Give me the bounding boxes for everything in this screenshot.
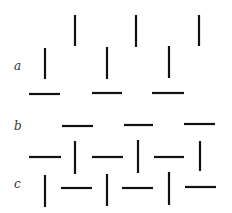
line-segments bbox=[0, 0, 232, 213]
figure: a b c bbox=[0, 0, 232, 213]
